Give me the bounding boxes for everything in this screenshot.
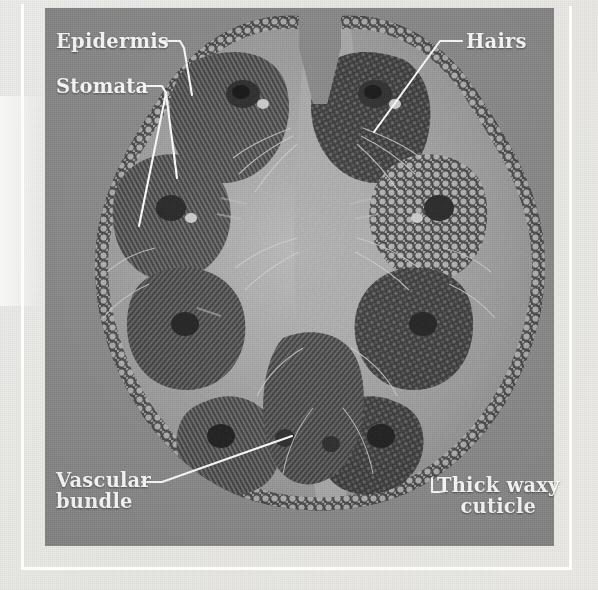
label-thick-waxy-cuticle: Thick waxy cuticle bbox=[437, 475, 560, 517]
label-cuticle-line1: Thick waxy bbox=[437, 474, 560, 497]
label-vascular-line1: Vascular bbox=[56, 469, 151, 492]
label-hairs: Hairs bbox=[466, 31, 527, 52]
label-vascular-bundle: Vascular bundle bbox=[56, 470, 151, 512]
label-stomata: Stomata bbox=[56, 76, 148, 97]
label-epidermis: Epidermis bbox=[56, 31, 169, 52]
label-cuticle-line2: cuticle bbox=[437, 496, 560, 517]
figure-frame-top-tick bbox=[21, 4, 24, 16]
label-vascular-line2: bundle bbox=[56, 491, 151, 512]
